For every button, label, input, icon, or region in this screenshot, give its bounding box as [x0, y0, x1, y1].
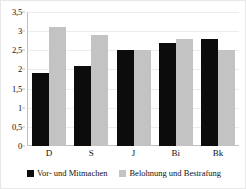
y-tick-mark: [22, 12, 25, 13]
bar: [159, 43, 176, 146]
legend-item[interactable]: Belohnung und Bestrafung: [119, 168, 221, 178]
legend-swatch-icon: [119, 170, 126, 177]
y-tick-mark: [22, 146, 25, 147]
y-axis-tick-label: 3,5: [12, 7, 22, 17]
y-axis-tick-label: 1,5: [12, 84, 22, 94]
y-tick-mark: [22, 50, 25, 51]
bar-group: [70, 12, 112, 146]
y-axis-tick-label: 0,5: [12, 122, 22, 132]
y-axis-tick-label: 2: [18, 64, 22, 74]
legend-label: Belohnung und Bestrafung: [129, 168, 221, 178]
bar-group: [112, 12, 154, 146]
y-axis-tick-label: 2,5: [12, 45, 22, 55]
y-tick-mark: [22, 69, 25, 70]
y-axis: 3,532,521,510,50: [1, 12, 25, 146]
bar: [218, 50, 235, 146]
bar: [201, 39, 218, 146]
bar: [49, 27, 66, 146]
x-axis: DSJBiBk: [28, 148, 239, 158]
bar-group: [155, 12, 197, 146]
bar: [74, 66, 91, 146]
bar-chart: 3,532,521,510,50 DSJBiBk Vor- und Mitmac…: [0, 0, 246, 189]
x-axis-tick-label: J: [112, 148, 154, 158]
x-axis-tick-label: Bk: [197, 148, 239, 158]
bars-layer: [28, 12, 239, 146]
y-tick-mark: [22, 31, 25, 32]
y-axis-tick-label: 3: [18, 26, 22, 36]
chart-legend: Vor- und MitmachenBelohnung und Bestrafu…: [1, 168, 246, 178]
bar: [134, 50, 151, 146]
bar: [32, 73, 49, 146]
bar: [176, 39, 193, 146]
bar: [91, 35, 108, 146]
y-tick-mark: [22, 107, 25, 108]
legend-label: Vor- und Mitmachen: [37, 168, 108, 178]
bar-group: [28, 12, 70, 146]
legend-item[interactable]: Vor- und Mitmachen: [27, 168, 108, 178]
bar: [117, 50, 134, 146]
legend-swatch-icon: [27, 170, 34, 177]
y-tick-mark: [22, 88, 25, 89]
y-axis-tick-label: 1: [18, 103, 22, 113]
y-axis-tick-label: 0: [18, 141, 22, 151]
y-tick-mark: [22, 126, 25, 127]
x-axis-tick-label: S: [70, 148, 112, 158]
bar-group: [197, 12, 239, 146]
x-axis-tick-label: D: [28, 148, 70, 158]
x-axis-tick-label: Bi: [155, 148, 197, 158]
